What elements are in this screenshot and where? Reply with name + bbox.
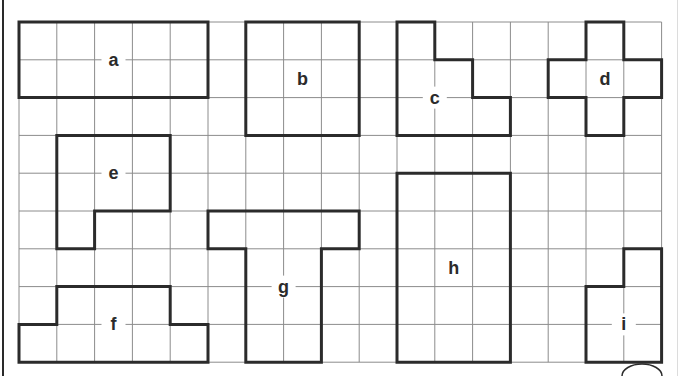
shape-label-a: a [108, 50, 119, 70]
shape-labels: abcdefghi [102, 49, 636, 336]
shape-e [57, 135, 170, 248]
grid [19, 22, 662, 362]
shape-label-e: e [108, 163, 118, 183]
page-corner-circle-icon [622, 364, 662, 376]
shapes [19, 22, 662, 362]
shape-label-f: f [111, 314, 118, 334]
shape-label-c: c [430, 88, 440, 108]
shape-label-d: d [599, 69, 610, 89]
shape-label-g: g [278, 277, 289, 297]
shape-label-b: b [297, 69, 308, 89]
shape-grid-diagram: abcdefghi [0, 0, 679, 376]
shape-label-i: i [621, 314, 626, 334]
shape-c [397, 22, 510, 135]
shape-label-h: h [448, 258, 459, 278]
